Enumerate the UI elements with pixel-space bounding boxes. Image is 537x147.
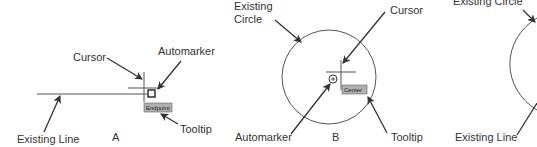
label-cursor: Cursor (390, 4, 423, 16)
panel-letter: B (332, 131, 339, 143)
label-existing-circle: Existing Circle (453, 0, 523, 7)
existing-circle (510, 18, 537, 110)
label-existing-line: Existing Line (17, 133, 79, 145)
panel-a: Endpoint Cursor Automarker Existing Line… (17, 45, 215, 145)
label-automarker: Automarker (158, 45, 215, 57)
tooltip-text: Endpoint (146, 105, 170, 111)
arrow-tooltip (368, 97, 387, 133)
label-cursor: Cursor (73, 51, 106, 63)
existing-line-segment (517, 103, 537, 135)
panel-c: Existing Circle Existing Line (453, 0, 537, 143)
tooltip-endpoint: Endpoint (144, 103, 172, 112)
label-existing-line: Existing Line (455, 131, 517, 143)
arrow-cursor (343, 12, 385, 63)
arrow-existing-circle (275, 20, 301, 42)
arrow-automarker (291, 84, 330, 134)
label-existing-circle-line1: Existing (234, 0, 273, 12)
arrow-cursor (107, 58, 142, 79)
circle-marker-icon (329, 75, 337, 83)
arrow-existing-line (44, 96, 60, 132)
autosnap-diagram: Endpoint Cursor Automarker Existing Line… (0, 0, 537, 147)
arrow-automarker (158, 61, 181, 89)
label-existing-circle-line2: Circle (234, 13, 262, 25)
tooltip-text: Center (344, 87, 362, 93)
panel-letter: A (112, 131, 120, 143)
tooltip-center: Center (342, 85, 367, 94)
label-tooltip: Tooltip (391, 131, 423, 143)
panel-b: Center Existing Circle Cursor Automarker… (234, 0, 423, 143)
label-tooltip: Tooltip (180, 123, 212, 135)
arrow-existing-circle (523, 10, 535, 22)
label-automarker: Automarker (235, 131, 292, 143)
square-marker-icon (148, 90, 155, 97)
arrow-tooltip (161, 114, 178, 124)
